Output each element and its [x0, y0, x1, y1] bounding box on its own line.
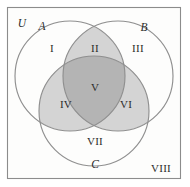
venn-diagram-figure: U A B C I II III IV V VI VII VIII [0, 0, 190, 187]
venn-diagram-canvas [0, 0, 190, 187]
